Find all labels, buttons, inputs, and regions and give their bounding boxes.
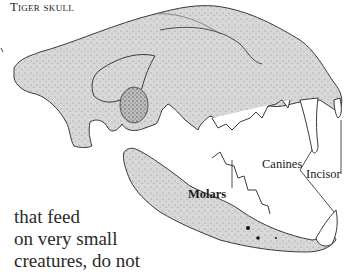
orbit-shadow [120,87,148,123]
incisor-label: Incisor [306,167,341,182]
lower-canine [316,210,337,246]
molars-label: Molars [188,187,226,202]
body-text-line: creatures, do not [14,250,140,272]
body-text: that feed on very small creatures, do no… [14,206,140,272]
canines-label: Canines [262,157,302,172]
body-text-line: on very small [14,228,140,250]
upper-canine [300,98,318,153]
upper-incisor [334,98,341,118]
cranium-shape [14,6,342,148]
body-text-line: that feed [14,206,140,228]
